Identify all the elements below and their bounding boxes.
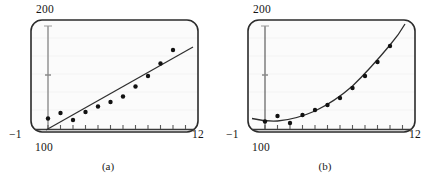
calculator-screen-a [0, 0, 216, 158]
panel-caption-a: (a) [0, 160, 216, 172]
panel-caption-b: (b) [217, 160, 433, 172]
panel-a: 200 −1 100 12 (a) [0, 0, 216, 180]
x-max-label-b: 12 [409, 129, 421, 141]
calculator-screen-b [217, 0, 433, 158]
y-max-label-a: 200 [36, 4, 54, 16]
y-min-label-a: 100 [35, 142, 53, 154]
x-min-label-b: −1 [226, 129, 239, 141]
panel-b: 200 −1 100 12 (b) [217, 0, 433, 180]
y-max-label-b: 200 [253, 4, 271, 16]
y-min-label-b: 100 [252, 142, 270, 154]
figure-two-calculator-plots: 200 −1 100 12 (a) [0, 0, 433, 180]
x-min-label-a: −1 [9, 129, 22, 141]
x-max-label-a: 12 [192, 129, 204, 141]
screen-inner-fill-a [31, 20, 198, 132]
screen-inner-fill-b [248, 20, 415, 132]
